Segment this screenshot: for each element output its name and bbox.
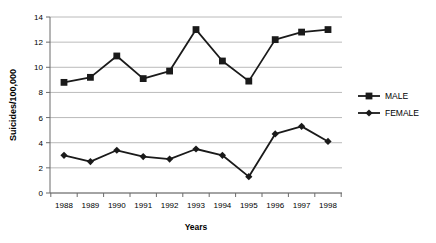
data-point-marker <box>113 53 120 60</box>
data-point-marker <box>87 74 94 81</box>
data-point-marker <box>60 152 67 159</box>
data-point-marker <box>140 75 147 82</box>
y-tick-label: 12 <box>34 38 43 47</box>
x-tick-label: 1989 <box>82 201 100 210</box>
x-tick-label: 1990 <box>108 201 126 210</box>
line-chart: 0246810121419881989199019911992199319941… <box>0 0 436 243</box>
data-point-marker <box>298 123 305 130</box>
x-tick-label: 1998 <box>319 201 337 210</box>
data-point-marker <box>87 158 94 165</box>
data-point-marker <box>219 58 226 65</box>
x-tick-label: 1997 <box>293 201 311 210</box>
x-tick-label: 1994 <box>214 201 232 210</box>
data-point-marker <box>192 145 199 152</box>
data-point-marker <box>113 147 120 154</box>
legend-label: FEMALE <box>385 108 419 118</box>
data-point-marker <box>245 78 252 85</box>
y-tick-label: 0 <box>39 189 44 198</box>
legend-item-female[interactable]: FEMALE <box>358 108 419 118</box>
legend-label: MALE <box>385 91 408 101</box>
y-tick-label: 14 <box>34 13 43 22</box>
x-tick-label: 1992 <box>161 201 179 210</box>
y-tick-label: 4 <box>39 139 44 148</box>
y-axis-title: Suicides/100,000 <box>8 69 18 141</box>
x-tick-label: 1995 <box>240 201 258 210</box>
data-point-marker <box>324 138 331 145</box>
data-point-marker <box>166 68 173 75</box>
y-tick-label: 6 <box>39 114 44 123</box>
data-point-marker <box>272 36 279 43</box>
legend-item-male[interactable]: MALE <box>358 91 408 101</box>
y-tick-label: 8 <box>39 88 44 97</box>
data-point-marker <box>61 79 68 86</box>
series-male <box>61 26 332 86</box>
chart-figure: 0246810121419881989199019911992199319941… <box>0 0 436 243</box>
x-tick-label: 1993 <box>187 201 205 210</box>
y-tick-label: 2 <box>39 164 44 173</box>
series-female <box>60 123 331 180</box>
data-point-marker <box>325 26 332 33</box>
x-tick-label: 1988 <box>55 201 73 210</box>
x-tick-label: 1991 <box>134 201 152 210</box>
x-tick-label: 1996 <box>266 201 284 210</box>
data-point-marker <box>298 29 305 36</box>
y-tick-label: 10 <box>34 63 43 72</box>
legend-marker <box>366 93 373 100</box>
data-point-marker <box>166 155 173 162</box>
legend-marker <box>365 109 372 116</box>
series-line <box>64 30 328 83</box>
data-point-marker <box>140 153 147 160</box>
data-point-marker <box>193 26 200 33</box>
x-axis-title: Years <box>185 222 208 232</box>
